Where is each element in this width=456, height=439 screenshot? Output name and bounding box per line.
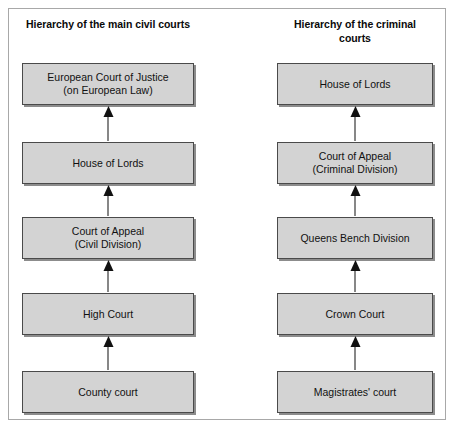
node-label: House of Lords	[315, 78, 394, 91]
node-civil-high-court: High Court	[22, 293, 194, 335]
node-label: Crown Court	[322, 308, 389, 321]
node-label: High Court	[79, 308, 137, 321]
node-label: Court of Appeal (Criminal Division)	[308, 150, 401, 176]
diagram-columns: Hierarchy of the main civil courts Europ…	[9, 9, 445, 419]
arrow-shaft	[108, 112, 109, 141]
node-label: Magistrates' court	[310, 386, 401, 399]
node-criminal-crown-court: Crown Court	[277, 293, 433, 335]
arrow-up-icon	[350, 185, 361, 216]
node-label: House of Lords	[68, 157, 147, 170]
column-title-criminal: Hierarchy of the criminal courts	[277, 18, 433, 45]
arrow-shaft	[108, 342, 109, 370]
node-civil-county-court: County court	[22, 371, 194, 413]
node-label: Court of Appeal (Civil Division)	[68, 225, 148, 251]
arrow-up-icon	[103, 336, 114, 370]
arrow-shaft	[108, 266, 109, 292]
arrow-up-icon	[350, 106, 361, 141]
column-title-civil: Hierarchy of the main civil courts	[22, 18, 194, 32]
diagram-frame: Hierarchy of the main civil courts Europ…	[8, 8, 446, 420]
column-criminal-courts: Hierarchy of the criminal courts House o…	[277, 9, 433, 419]
arrow-shaft	[355, 191, 356, 216]
arrow-up-icon	[103, 185, 114, 216]
node-criminal-queens-bench-division: Queens Bench Division	[277, 217, 433, 259]
node-criminal-house-of-lords: House of Lords	[277, 63, 433, 105]
column-civil-courts: Hierarchy of the main civil courts Europ…	[22, 9, 194, 419]
arrow-up-icon	[103, 260, 114, 292]
node-criminal-court-of-appeal: Court of Appeal (Criminal Division)	[277, 142, 433, 184]
arrow-up-icon	[350, 260, 361, 292]
arrow-shaft	[355, 266, 356, 292]
node-criminal-magistrates-court: Magistrates' court	[277, 371, 433, 413]
node-label: European Court of Justice (on European L…	[43, 71, 172, 97]
node-label: Queens Bench Division	[296, 232, 413, 245]
node-label: County court	[74, 386, 142, 399]
arrow-up-icon	[350, 336, 361, 370]
arrow-up-icon	[103, 106, 114, 141]
arrow-shaft	[108, 191, 109, 216]
node-civil-house-of-lords: House of Lords	[22, 142, 194, 184]
node-civil-european-court-of-justice: European Court of Justice (on European L…	[22, 63, 194, 105]
arrow-shaft	[355, 112, 356, 141]
node-civil-court-of-appeal: Court of Appeal (Civil Division)	[22, 217, 194, 259]
arrow-shaft	[355, 342, 356, 370]
